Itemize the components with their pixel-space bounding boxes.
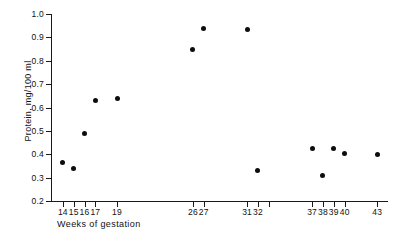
y-tick-mark <box>46 108 51 109</box>
y-tick-label: 1.0 <box>32 9 44 19</box>
y-tick-mark <box>46 178 51 179</box>
y-tick-label: 0.9 <box>32 32 44 42</box>
x-tick-label: 15 <box>69 207 79 217</box>
y-tick-mark <box>46 131 51 132</box>
data-point <box>245 27 250 32</box>
y-tick-label: 0.4 <box>32 149 44 159</box>
y-tick-mark <box>46 14 51 15</box>
y-tick-label: 0.8 <box>32 56 44 66</box>
x-tick-label: 19 <box>112 207 122 217</box>
data-point <box>342 151 347 156</box>
data-point <box>201 26 206 31</box>
y-tick-label: 0.3 <box>32 173 44 183</box>
data-point <box>60 160 65 165</box>
scatter-chart-figure: 0.20.30.40.50.60.70.80.91.0 141516171926… <box>0 0 400 238</box>
data-point <box>190 47 195 52</box>
x-tick-mark <box>269 202 270 207</box>
data-point <box>310 146 315 151</box>
data-point <box>93 98 98 103</box>
x-tick-label: 32 <box>253 207 263 217</box>
data-point <box>331 146 336 151</box>
y-tick-mark <box>46 84 51 85</box>
x-tick-label: 37 <box>307 207 317 217</box>
x-tick-label: 27 <box>199 207 209 217</box>
y-tick-mark <box>46 154 51 155</box>
data-point <box>320 173 325 178</box>
y-tick-label: 0.6 <box>32 103 44 113</box>
y-axis-title: Protein, mg/100 ml <box>23 21 33 181</box>
y-tick-label: 0.2 <box>32 196 44 206</box>
x-tick-label: 17 <box>90 207 100 217</box>
data-point <box>71 166 76 171</box>
data-point <box>375 152 380 157</box>
x-tick-label: 31 <box>242 207 252 217</box>
data-point <box>255 168 260 173</box>
x-tick-label: 26 <box>188 207 198 217</box>
x-axis-spine <box>51 201 388 202</box>
y-tick-mark <box>46 61 51 62</box>
data-point <box>115 96 120 101</box>
y-tick-label: 0.7 <box>32 79 44 89</box>
x-tick-label: 43 <box>372 207 382 217</box>
x-tick-label: 14 <box>58 207 68 217</box>
y-tick-label: 0.5 <box>32 126 44 136</box>
y-tick-mark <box>46 201 51 202</box>
y-tick-mark <box>46 37 51 38</box>
x-tick-label: 38 <box>318 207 328 217</box>
data-point <box>82 131 87 136</box>
x-tick-label: 16 <box>80 207 90 217</box>
plot-area <box>52 14 388 201</box>
x-axis-title: Weeks of gestation <box>57 219 141 229</box>
x-tick-label: 40 <box>340 207 350 217</box>
x-tick-label: 39 <box>329 207 339 217</box>
